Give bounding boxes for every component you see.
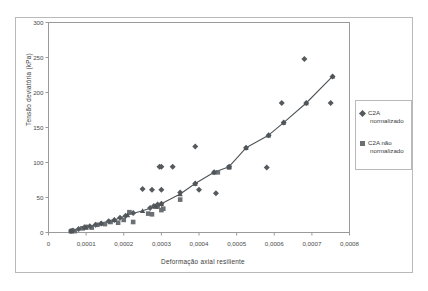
data-point-square: [150, 212, 155, 217]
data-point-diamond: [328, 100, 334, 106]
legend-label-line1: C2A não: [368, 139, 392, 146]
legend-item-nao-normalizado: C2A não normalizado: [360, 139, 412, 155]
data-point-diamond: [192, 143, 198, 149]
axis-tick-marks: [46, 23, 350, 236]
square-marker-icon: [360, 141, 365, 146]
legend-label-line2: normalizado: [368, 117, 412, 125]
fitted-trend-line: [71, 76, 332, 231]
series-c2a-nao-normalizado-markers: [69, 165, 232, 233]
data-point-diamond: [264, 164, 270, 170]
data-point-diamond: [279, 100, 285, 106]
legend-label-line2: normalizado: [368, 147, 412, 155]
data-point-diamond: [158, 187, 164, 193]
data-point-diamond: [301, 56, 307, 62]
legend-item-normalizado: C2A normalizado: [360, 109, 412, 125]
data-point-square: [131, 220, 136, 225]
data-point-diamond: [140, 186, 146, 192]
data-point-square: [178, 197, 183, 202]
data-point-square: [161, 206, 166, 211]
series-c2a-normalizado-markers: [68, 56, 335, 234]
data-point-diamond: [213, 190, 219, 196]
data-point-diamond: [149, 187, 155, 193]
legend-label-line1: C2A: [368, 109, 380, 116]
chart-figure: Tensão deviatória (kPa) Deformação axial…: [0, 0, 428, 291]
fitted-curve-markers: [68, 74, 335, 234]
chart-legend: C2A normalizado C2A não normalizado: [355, 100, 412, 170]
data-point-diamond: [170, 164, 176, 170]
data-point-square: [116, 220, 121, 225]
data-point-diamond: [196, 187, 202, 193]
